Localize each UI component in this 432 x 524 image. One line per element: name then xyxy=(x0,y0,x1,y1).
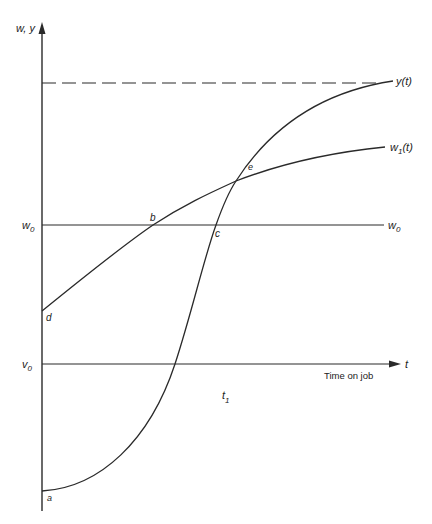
y-axis-label: w, y xyxy=(16,22,36,34)
time-axis-symbol: t xyxy=(405,358,409,370)
y-curve xyxy=(42,81,393,491)
v0-label: v0 xyxy=(22,358,33,373)
time-axis xyxy=(42,361,401,368)
w1-curve xyxy=(42,147,385,311)
point-e-label: e xyxy=(248,162,253,172)
point-c-label: c xyxy=(215,228,220,239)
t1-label: t1 xyxy=(222,389,230,405)
time-axis-arrow-icon xyxy=(389,361,401,368)
w0-left-label: w0 xyxy=(22,219,35,234)
w1-curve-label: w1(t) xyxy=(390,141,413,156)
y-axis-arrow-icon xyxy=(39,22,46,34)
point-d-label: d xyxy=(46,312,52,323)
point-a-label: a xyxy=(47,493,52,503)
point-b-label: b xyxy=(150,212,156,223)
time-axis-caption: Time on job xyxy=(324,370,373,381)
y-curve-label: y(t) xyxy=(395,75,412,87)
wage-productivity-diagram: w, y w0 w0 v0 t Time on job w1(t) y(t) a… xyxy=(0,0,432,524)
w0-right-label: w0 xyxy=(388,219,401,234)
y-axis xyxy=(39,22,46,511)
